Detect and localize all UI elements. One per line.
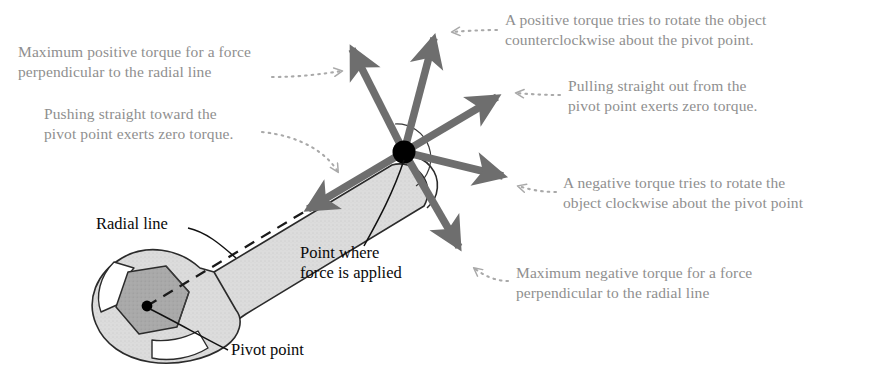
label-radial-line: Radial line [96, 214, 168, 234]
dotted-leader-max-negative-torque [474, 268, 508, 281]
label-pivot-point: Pivot point [231, 340, 304, 360]
annotation-positive-torque-ccw: A positive torque tries to rotate the ob… [505, 10, 875, 50]
annotation-pulling-out-from-pivot: Pulling straight out from the pivot poin… [568, 76, 873, 116]
annotation-pushing-toward-pivot: Pushing straight toward the pivot point … [44, 104, 269, 144]
dotted-leader-positive-torque-ccw [452, 30, 497, 32]
dotted-leader-pushing-toward-pivot [262, 132, 338, 172]
dotted-leader-pulling-out [516, 93, 560, 95]
torque-diagram-figure: · · · · · [0, 0, 882, 381]
leader-radial-line [188, 228, 236, 258]
dotted-leader-negative-torque-cw [518, 186, 556, 192]
annotation-max-negative-torque: Maximum negative torque for a force perp… [516, 263, 856, 303]
annotation-negative-torque-cw: A negative torque tries to rotate the ob… [563, 173, 878, 213]
force-vector-max-positive-torque [352, 49, 404, 152]
label-point-where-force-applied: Point where force is applied [300, 243, 402, 283]
annotation-max-positive-torque: Maximum positive torque for a force perp… [18, 42, 268, 82]
dotted-leader-max-positive-torque [272, 71, 342, 77]
